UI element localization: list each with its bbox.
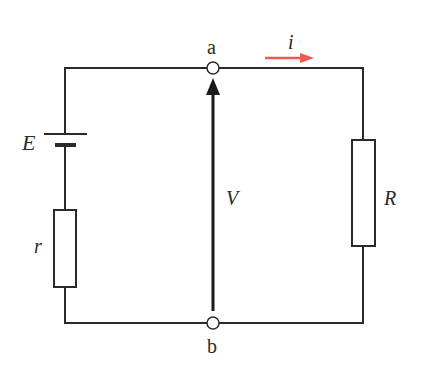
wire-top: [65, 68, 207, 134]
resistor-r: [54, 210, 76, 287]
node-a: [207, 62, 219, 74]
wire-right-bottom: [219, 246, 363, 323]
voltage-arrowhead: [206, 78, 220, 95]
label-load-resistance: R: [384, 188, 396, 208]
label-voltage: V: [226, 188, 238, 208]
wire-top-right: [219, 68, 363, 140]
label-internal-resistance: r: [34, 236, 42, 256]
label-emf: E: [22, 132, 35, 154]
node-b: [207, 317, 219, 329]
label-node-a: a: [207, 37, 216, 57]
label-node-b: b: [207, 336, 217, 356]
resistor-R: [352, 140, 375, 246]
label-current: i: [288, 32, 294, 52]
current-arrowhead: [300, 53, 314, 63]
wire-bottom-left: [65, 287, 207, 323]
